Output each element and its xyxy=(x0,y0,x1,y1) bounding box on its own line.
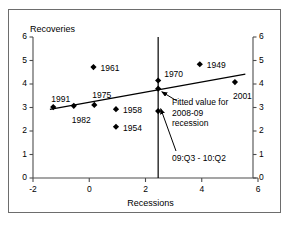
y-axis-left-tick-label: 6 xyxy=(22,31,27,41)
data-point-label: 1954 xyxy=(123,123,142,133)
data-point-label: 1961 xyxy=(100,63,119,73)
y-axis-left-tick-label: 3 xyxy=(22,102,27,112)
y-axis-title: Recoveries xyxy=(30,24,75,34)
y-axis-left-tick-label: 2 xyxy=(22,125,27,135)
annotation-line: 2008-09 xyxy=(172,108,228,119)
data-point-label: 1949 xyxy=(207,60,226,70)
y-axis-right-tick-label: 4 xyxy=(259,78,264,88)
data-point-marker xyxy=(232,79,238,85)
data-point-marker xyxy=(197,61,203,67)
data-point-label: 1958 xyxy=(123,105,142,115)
data-point-marker xyxy=(90,64,96,70)
x-axis-tick-label: 4 xyxy=(199,184,204,194)
data-point-label: 1975 xyxy=(92,90,111,100)
fitted-value-note: Fitted value for2008-09recession xyxy=(172,97,228,129)
data-point-label: 1991 xyxy=(51,94,70,104)
y-axis-right-tick-label: 3 xyxy=(259,102,264,112)
data-point-marker xyxy=(155,77,161,83)
data-point-label: 1982 xyxy=(72,115,91,125)
annotation-line: 09:Q3 - 10:Q2 xyxy=(172,153,226,164)
y-axis-right-tick-label: 1 xyxy=(259,149,264,159)
annotation-line: recession xyxy=(172,118,228,129)
chart-figure: 01234560123456-20246RecoveriesRecessions… xyxy=(0,0,290,228)
data-point-marker xyxy=(113,106,119,112)
y-axis-left-tick-label: 5 xyxy=(22,55,27,65)
y-axis-left-tick-label: 1 xyxy=(22,149,27,159)
y-axis-right-tick-label: 5 xyxy=(259,55,264,65)
x-axis-title: Recessions xyxy=(127,198,174,208)
x-axis-tick-label: 2 xyxy=(143,184,148,194)
x-axis-tick-label: 6 xyxy=(256,184,261,194)
recession-window-note: 09:Q3 - 10:Q2 xyxy=(172,153,226,164)
y-axis-right-tick-label: 6 xyxy=(259,31,264,41)
annotation-line: Fitted value for xyxy=(172,97,228,108)
data-point-marker xyxy=(71,103,77,109)
data-point-label: 2001 xyxy=(233,91,252,101)
y-axis-right-tick-label: 0 xyxy=(259,172,264,182)
y-axis-right-tick-label: 2 xyxy=(259,125,264,135)
y-axis-left-tick-label: 0 xyxy=(22,172,27,182)
data-point-label: 1970 xyxy=(164,69,183,79)
y-axis-left-tick-label: 4 xyxy=(22,78,27,88)
x-axis-tick-label: 0 xyxy=(87,184,92,194)
x-axis-tick-label: -2 xyxy=(29,184,37,194)
data-point-marker xyxy=(113,124,119,130)
data-point-marker xyxy=(91,102,97,108)
